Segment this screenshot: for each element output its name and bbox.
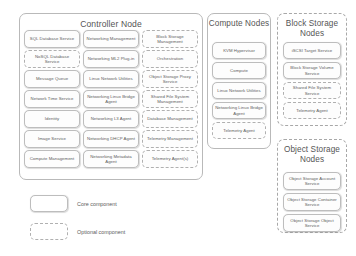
legend-row-optional: Optional component (30, 223, 125, 240)
legend-swatch-optional-icon (30, 223, 68, 240)
architecture-diagram: Controller Node SQL Database Service NoS… (0, 0, 356, 256)
legend-label-core: Core component (77, 201, 117, 207)
legend-row-core: Core component (30, 195, 117, 212)
legend-swatch-core-icon (30, 195, 68, 212)
legend-label-optional: Optional component (77, 229, 125, 235)
legend: Core component Optional component (0, 0, 356, 256)
